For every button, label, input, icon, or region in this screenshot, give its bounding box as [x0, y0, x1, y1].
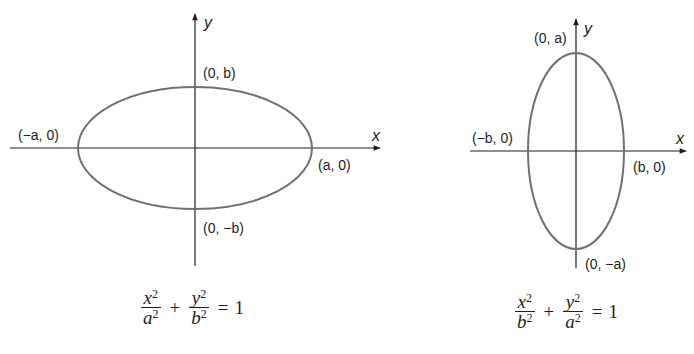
plus-sign: +: [544, 301, 555, 323]
point-bottom-right: (0, −a): [585, 256, 626, 272]
rhs-value: 1: [234, 297, 244, 319]
horizontal-ellipse-diagram: y x (0, b) (0, −b) (−a, 0) (a, 0): [10, 14, 381, 266]
numerator: x: [144, 287, 152, 308]
numerator: x: [518, 291, 526, 312]
exponent: 2: [152, 287, 158, 301]
equals-sign: =: [592, 301, 603, 323]
equation-vertical: x2 b2 + y2 a2 = 1: [512, 292, 618, 331]
numerator: y: [566, 291, 574, 312]
y-axis-label-left: y: [203, 14, 213, 31]
fraction-y-over-b: y2 b2: [189, 288, 209, 327]
fraction-x-over-a: x2 a2: [141, 288, 161, 327]
denominator: b: [191, 307, 201, 328]
point-left-left: (−a, 0): [18, 127, 59, 143]
exponent: 2: [201, 307, 207, 321]
exponent: 2: [153, 307, 159, 321]
exponent: 2: [527, 311, 533, 325]
point-left-right: (−b, 0): [472, 130, 513, 146]
point-top-right: (0, a): [534, 30, 567, 46]
point-right-right: (b, 0): [633, 159, 666, 175]
rhs-value: 1: [608, 301, 618, 323]
denominator: a: [143, 307, 153, 328]
fraction-x-over-b: x2 b2: [515, 292, 535, 331]
x-axis-label-left: x: [371, 127, 381, 144]
exponent: 2: [526, 291, 532, 305]
point-top-left: (0, b): [203, 65, 236, 81]
exponent: 2: [575, 311, 581, 325]
denominator: a: [565, 311, 575, 332]
equation-horizontal: x2 a2 + y2 b2 = 1: [138, 288, 244, 327]
x-axis-label-right: x: [675, 130, 685, 147]
exponent: 2: [200, 287, 206, 301]
point-right-left: (a, 0): [318, 157, 351, 173]
numerator: y: [192, 287, 200, 308]
fraction-y-over-a: y2 a2: [563, 292, 583, 331]
point-bottom-left: (0, −b): [203, 220, 244, 236]
denominator: b: [517, 311, 527, 332]
equals-sign: =: [218, 297, 229, 319]
plus-sign: +: [170, 297, 181, 319]
exponent: 2: [574, 291, 580, 305]
vertical-ellipse-diagram: y x (0, a) (0, −a) (−b, 0) (b, 0): [470, 19, 686, 272]
y-axis-label-right: y: [583, 20, 593, 37]
